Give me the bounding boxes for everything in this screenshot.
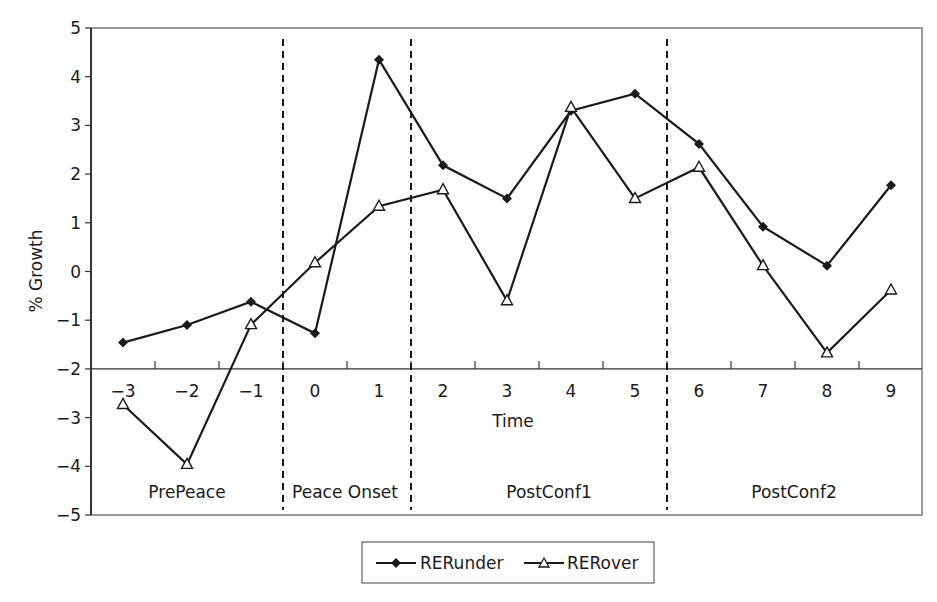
line-chart: 543210−1−2−3−4−5 −3−2−10123456789 PrePea… [0, 0, 937, 602]
filled-diamond-marker [246, 297, 256, 307]
x-tick-label: 9 [886, 381, 897, 401]
x-tick-label: 7 [758, 381, 769, 401]
region-dividers [283, 39, 667, 510]
region-label: PostConf1 [506, 482, 591, 502]
x-tick-label: −2 [174, 381, 199, 401]
y-tick-label: 2 [70, 164, 81, 184]
region-labels: PrePeacePeace OnsetPostConf1PostConf2 [148, 482, 836, 502]
x-tick-label: 1 [374, 381, 385, 401]
y-tick-label: −3 [56, 408, 81, 428]
y-tick-label: −2 [56, 359, 81, 379]
x-tick-label: −1 [238, 381, 263, 401]
y-tick-label: 0 [70, 262, 81, 282]
x-tick-label: 8 [822, 381, 833, 401]
x-tick-label: 5 [630, 381, 641, 401]
x-axis: −3−2−10123456789 [91, 361, 922, 401]
x-tick-label: 3 [502, 381, 513, 401]
x-tick-label: 2 [438, 381, 449, 401]
open-triangle-marker [438, 184, 449, 194]
y-tick-label: −5 [56, 505, 81, 525]
filled-diamond-marker [118, 338, 128, 348]
y-axis-title: % Growth [26, 229, 46, 312]
x-tick-label: 0 [310, 381, 321, 401]
open-triangle-marker [886, 284, 897, 294]
legend-label: RERover [567, 553, 639, 573]
y-tick-label: −4 [56, 456, 81, 476]
legend: RERunder RERover [362, 542, 654, 583]
filled-diamond-marker [374, 55, 384, 65]
filled-diamond-marker [182, 320, 192, 330]
series-group [118, 55, 897, 469]
plot-frame [91, 28, 922, 515]
y-tick-label: 4 [70, 67, 81, 87]
legend-label: RERunder [420, 553, 503, 573]
y-tick-label: −1 [56, 310, 81, 330]
filled-diamond-marker [310, 328, 320, 338]
open-triangle-marker [694, 161, 705, 171]
x-tick-label: 6 [694, 381, 705, 401]
region-label: PostConf2 [751, 482, 836, 502]
y-axis: 543210−1−2−3−4−5 [56, 18, 91, 525]
x-tick-label: 4 [566, 381, 577, 401]
region-label: Peace Onset [292, 482, 398, 502]
region-label: PrePeace [148, 482, 225, 502]
y-tick-label: 5 [70, 18, 81, 38]
y-tick-label: 1 [70, 213, 81, 233]
open-triangle-marker [566, 101, 577, 111]
filled-diamond-marker [438, 160, 448, 170]
x-axis-title: Time [491, 411, 534, 431]
y-tick-label: 3 [70, 115, 81, 135]
